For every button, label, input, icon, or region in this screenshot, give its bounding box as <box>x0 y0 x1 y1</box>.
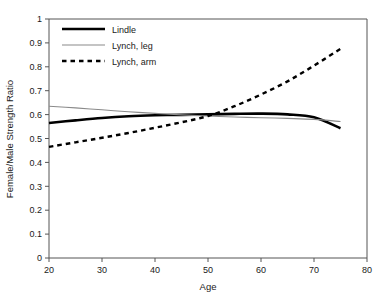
y-tick-label: 0.9 <box>29 38 42 48</box>
legend-item-lindle: Lindle <box>62 25 136 35</box>
x-axis-ticks: 20304050607080 <box>44 258 372 275</box>
y-tick-label: 0.8 <box>29 62 42 72</box>
y-tick-label: 1 <box>37 14 42 24</box>
legend-item-lynch-arm: Lynch, arm <box>62 57 156 67</box>
x-tick-label: 80 <box>362 265 372 275</box>
y-tick-label: 0.2 <box>29 205 42 215</box>
legend-label-lynch-leg: Lynch, leg <box>112 41 153 51</box>
y-tick-label: 0 <box>37 253 42 263</box>
y-tick-label: 0.7 <box>29 86 42 96</box>
chart-legend: Lindle Lynch, leg Lynch, arm <box>62 25 156 67</box>
strength-ratio-line-chart: 00.10.20.30.40.50.60.70.80.91 2030405060… <box>0 0 385 298</box>
series-line-lynch-arm <box>49 49 341 147</box>
x-tick-label: 40 <box>150 265 160 275</box>
y-tick-label: 0.5 <box>29 134 42 144</box>
legend-item-lynch-leg: Lynch, leg <box>62 41 153 51</box>
axes-frame <box>49 19 367 258</box>
y-tick-label: 0.4 <box>29 158 42 168</box>
legend-label-lindle: Lindle <box>112 25 136 35</box>
x-tick-label: 30 <box>97 265 107 275</box>
legend-label-lynch-arm: Lynch, arm <box>112 57 156 67</box>
x-tick-label: 50 <box>203 265 213 275</box>
y-tick-label: 0.3 <box>29 182 42 192</box>
x-tick-label: 70 <box>309 265 319 275</box>
y-tick-label: 0.1 <box>29 229 42 239</box>
y-tick-label: 0.6 <box>29 110 42 120</box>
chart-container: 00.10.20.30.40.50.60.70.80.91 2030405060… <box>0 0 385 298</box>
x-tick-label: 60 <box>256 265 266 275</box>
x-tick-label: 20 <box>44 265 54 275</box>
y-axis-title: Female/Male Strength Ratio <box>4 80 15 198</box>
x-axis-title: Age <box>200 281 217 292</box>
data-series-layer <box>49 49 341 147</box>
y-axis-ticks: 00.10.20.30.40.50.60.70.80.91 <box>29 14 49 263</box>
